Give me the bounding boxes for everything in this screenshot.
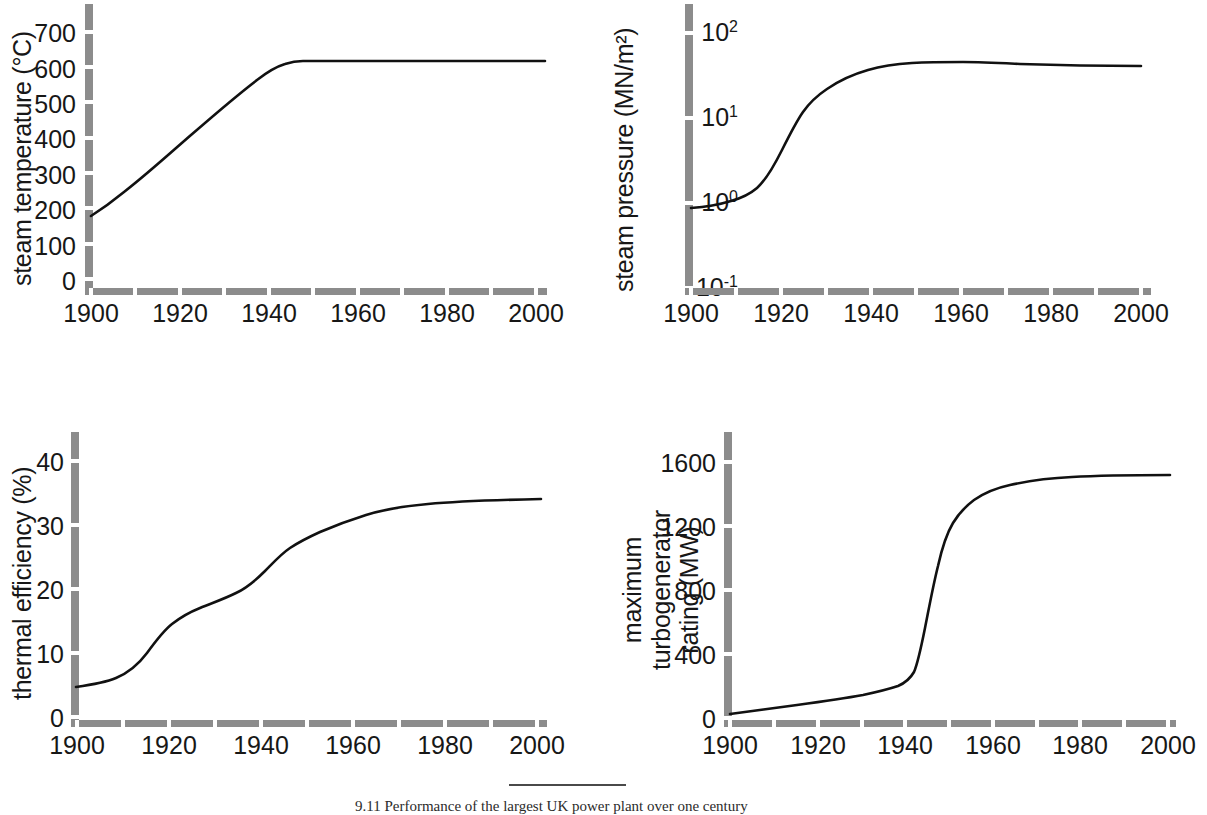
chart4-xtick-1980: 1980 xyxy=(1034,731,1126,760)
chart3-xtick-1900: 1900 xyxy=(31,731,123,760)
chart3-xtick-1980: 1980 xyxy=(399,731,491,760)
chart1-y-axis-bar xyxy=(85,4,93,294)
chart3-curve xyxy=(76,499,541,687)
chart1-x-axis-bar xyxy=(85,288,547,295)
caption-divider-rule xyxy=(509,784,626,786)
chart1-plot xyxy=(0,0,600,330)
chart3-xtick-1920: 1920 xyxy=(123,731,215,760)
chart2-y-axis-bar xyxy=(685,4,693,294)
chart2-xtick-1920: 1920 xyxy=(735,299,827,328)
chart1-xtick-1900: 1900 xyxy=(45,299,137,328)
chart1-curve xyxy=(91,61,545,216)
chart2-plot xyxy=(600,0,1207,330)
chart-panel-steam-temperature: steam temperature (°C) 700 600 500 400 3… xyxy=(0,0,600,330)
chart4-xtick-1900: 1900 xyxy=(684,731,776,760)
chart3-xtick-2000: 2000 xyxy=(491,731,583,760)
chart1-xtick-1960: 1960 xyxy=(312,299,404,328)
chart1-xtick-1980: 1980 xyxy=(401,299,493,328)
chart-panel-turbogenerator-rating: maximum turbogeneratorrating (MW) 1600 1… xyxy=(600,420,1207,760)
chart4-xtick-1960: 1960 xyxy=(947,731,1039,760)
chart2-curve xyxy=(691,62,1141,208)
chart1-xtick-1940: 1940 xyxy=(223,299,315,328)
chart2-xtick-1900: 1900 xyxy=(645,299,737,328)
chart3-y-axis-bar xyxy=(71,432,79,727)
chart2-xtick-1940: 1940 xyxy=(825,299,917,328)
chart4-y-axis-bar xyxy=(724,432,732,727)
chart4-curve xyxy=(730,475,1170,714)
chart1-xtick-2000: 2000 xyxy=(490,299,582,328)
chart2-xtick-1960: 1960 xyxy=(915,299,1007,328)
chart3-xtick-1940: 1940 xyxy=(215,731,307,760)
chart4-xtick-1920: 1920 xyxy=(772,731,864,760)
chart4-xtick-2000: 2000 xyxy=(1122,731,1207,760)
chart1-xtick-1920: 1920 xyxy=(134,299,226,328)
chart2-xtick-2000: 2000 xyxy=(1095,299,1187,328)
chart3-plot xyxy=(0,420,600,760)
chart2-xtick-1980: 1980 xyxy=(1005,299,1097,328)
chart4-xtick-1940: 1940 xyxy=(859,731,951,760)
chart-panel-thermal-efficiency: thermal efficiency (%) 40 30 20 10 0 xyxy=(0,420,600,760)
chart-panel-steam-pressure: steam pressure (MN/m²) 102 101 100 10-1 xyxy=(600,0,1207,330)
figure-caption: 9.11 Performance of the largest UK power… xyxy=(355,798,748,815)
chart3-xtick-1960: 1960 xyxy=(307,731,399,760)
chart4-plot xyxy=(600,420,1207,760)
